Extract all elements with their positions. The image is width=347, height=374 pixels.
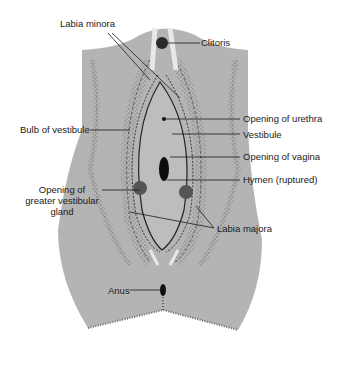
gland-right	[179, 185, 193, 199]
label-opening-of-urethra: Opening of urethra	[243, 113, 322, 124]
label-clitoris: Clitoris	[201, 37, 230, 48]
label-gland-line2: greater vestibular	[22, 195, 102, 206]
urethra-shape	[162, 117, 166, 121]
label-greater-vestibular-gland: Opening of greater vestibular gland	[22, 184, 102, 217]
anatomy-diagram: Labia minora Clitoris Opening of urethra…	[0, 0, 347, 374]
label-gland-line1: Opening of	[22, 184, 102, 195]
anus-shape	[160, 284, 166, 296]
label-anus: Anus	[108, 285, 130, 296]
label-gland-line3: gland	[22, 206, 102, 217]
label-opening-of-vagina: Opening of vagina	[243, 151, 320, 162]
clitoris-shape	[156, 37, 168, 49]
label-hymen: Hymen (ruptured)	[243, 174, 317, 185]
gland-left	[133, 181, 147, 195]
label-labia-minora: Labia minora	[60, 18, 115, 29]
label-labia-majora: Labia majora	[217, 223, 272, 234]
label-bulb-of-vestibule: Bulb of vestibule	[20, 124, 90, 135]
vagina-opening-shape	[159, 157, 169, 181]
label-vestibule: Vestibule	[243, 129, 282, 140]
